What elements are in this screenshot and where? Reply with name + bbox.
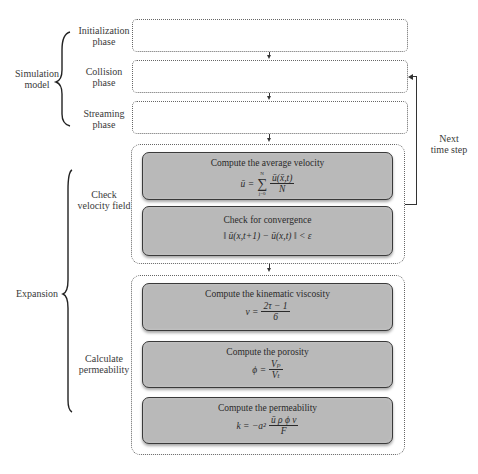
step-average-velocity: Compute the average velocity ū = N ∑ j=0… [142,152,393,200]
label-line: time step [424,144,474,155]
label-line: model [12,79,62,90]
label-line: Calculate [74,353,134,364]
sub-label-check-velocity: Check velocity field [74,189,134,211]
step-kinematic-viscosity: Compute the kinematic viscosity ν = 2τ −… [142,283,393,331]
step-title: Compute the permeability [143,403,392,413]
sub-label-calculate-permeability: Calculate permeability [74,353,134,375]
formula-convergence: ‖ ū(x,t+1) − ū(x,t) ‖ < ε [143,231,392,241]
formula-lhs: k = −a² [237,421,266,431]
formula-permeability: k = −a² ū ρ ϕ ν F [143,415,392,436]
fraction: ū(x̄,t) N [270,173,294,194]
step-check-convergence: Check for convergence ‖ ū(x,t+1) − ū(x,t… [142,206,393,256]
numerator: 2τ − 1 [261,301,289,312]
formula-lhs: ϕ = [252,365,266,375]
denominator: F [281,426,287,436]
denominator: N [279,184,285,194]
label-line: Initialization [78,25,130,36]
arrow-down-icon [267,96,271,100]
label-line: phase [78,119,130,130]
numerator: Vₚ [269,359,283,370]
phase-label-collision: Collision phase [78,66,130,88]
label-line: Next [424,133,474,144]
collision-phase-box [132,60,408,93]
label-line: phase [78,77,130,88]
label-line: permeability [74,364,134,375]
arrow-down-icon [267,268,271,272]
phase-label-streaming: Streaming phase [78,108,130,130]
formula-viscosity: ν = 2τ − 1 6 [143,301,392,322]
group-label-simulation-model: Simulation model [12,68,62,90]
fraction: 2τ − 1 6 [261,301,289,322]
step-title: Compute the porosity [143,347,392,357]
formula-average-velocity: ū = N ∑ j=0 ū(x̄,t) N [143,170,392,197]
label-line: phase [78,36,130,47]
label-line: Collision [78,66,130,77]
denominator: Vₜ [272,370,280,380]
formula-porosity: ϕ = Vₚ Vₜ [143,359,392,380]
loop-label-next-time-step: Next time step [424,133,474,155]
sum-lower: j=0 [259,190,266,197]
denominator: 6 [273,312,278,322]
brace-expansion-icon [63,170,72,412]
label-line: Simulation [12,68,62,79]
arrow-down-icon [267,55,271,59]
phase-label-initialization: Initialization phase [78,25,130,47]
step-title: Compute the average velocity [143,158,392,168]
formula-lhs: ν = [245,307,258,317]
label-line: Check [74,189,134,200]
fraction: ū ρ ϕ ν F [269,415,299,436]
numerator: ū(x̄,t) [270,173,294,184]
step-title: Compute the kinematic viscosity [143,289,392,299]
group-label-expansion: Expansion [12,288,62,299]
initialization-phase-box [132,19,408,52]
step-title: Check for convergence [143,215,392,225]
arrow-left-icon [408,74,413,80]
summation-icon: N ∑ j=0 [257,170,267,197]
loop-line-vertical [416,76,417,205]
step-porosity: Compute the porosity ϕ = Vₚ Vₜ [142,341,393,388]
numerator: ū ρ ϕ ν [269,415,299,426]
label-line: Expansion [12,288,62,299]
step-permeability: Compute the permeability k = −a² ū ρ ϕ ν… [142,397,393,444]
arrow-down-icon [267,138,271,142]
label-line: velocity field [74,200,134,211]
formula-lhs: ū = [241,179,255,189]
fraction: Vₚ Vₜ [269,359,283,380]
streaming-phase-box [132,101,408,134]
label-line: Streaming [78,108,130,119]
